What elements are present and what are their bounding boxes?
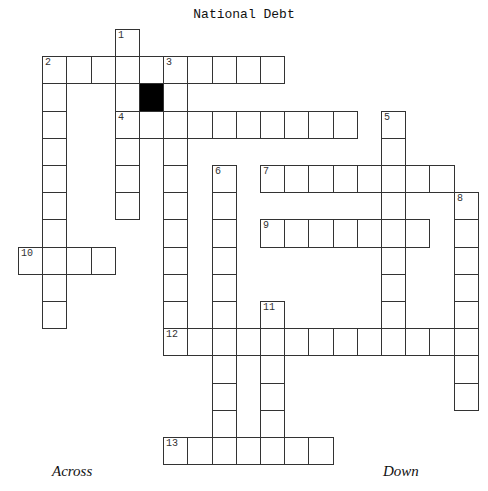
grid-cell[interactable] — [308, 437, 334, 465]
grid-cell[interactable] — [115, 165, 140, 193]
grid-cell[interactable] — [163, 165, 188, 193]
grid-cell[interactable] — [381, 328, 406, 356]
grid-cell[interactable] — [260, 410, 285, 438]
grid-cell[interactable] — [139, 56, 164, 84]
grid-cell[interactable] — [454, 274, 479, 302]
grid-cell[interactable] — [454, 301, 479, 329]
grid-cell[interactable]: 3 — [163, 56, 188, 84]
grid-cell[interactable] — [381, 165, 406, 193]
grid-cell[interactable] — [212, 192, 237, 220]
grid-cell[interactable] — [212, 111, 237, 139]
grid-cell[interactable]: 7 — [260, 165, 285, 193]
grid-cell[interactable] — [212, 383, 237, 411]
grid-cell[interactable] — [236, 56, 261, 84]
grid-cell[interactable] — [212, 56, 237, 84]
grid-cell[interactable] — [236, 328, 261, 356]
grid-cell[interactable] — [163, 83, 188, 112]
grid-cell[interactable] — [163, 138, 188, 166]
grid-cell[interactable]: 12 — [163, 328, 188, 356]
grid-cell[interactable] — [212, 274, 237, 302]
grid-cell[interactable] — [405, 165, 430, 193]
grid-cell[interactable] — [405, 328, 430, 356]
grid-cell[interactable] — [333, 328, 358, 356]
grid-cell[interactable] — [260, 56, 285, 84]
grid-cell[interactable] — [42, 192, 67, 220]
grid-cell[interactable] — [308, 328, 334, 356]
grid-cell[interactable] — [260, 383, 285, 411]
grid-cell[interactable] — [66, 247, 92, 275]
grid-cell[interactable] — [212, 355, 237, 384]
grid-cell[interactable] — [308, 219, 334, 248]
grid-cell[interactable] — [333, 111, 358, 139]
grid-cell[interactable] — [163, 301, 188, 329]
grid-cell[interactable]: 13 — [163, 437, 188, 465]
grid-cell[interactable] — [187, 56, 213, 84]
grid-cell[interactable] — [284, 219, 309, 248]
grid-cell[interactable] — [260, 111, 285, 139]
grid-cell[interactable] — [212, 301, 237, 329]
grid-cell[interactable] — [454, 247, 479, 275]
grid-cell[interactable] — [42, 247, 67, 275]
grid-cell[interactable] — [212, 410, 237, 438]
grid-cell[interactable] — [308, 111, 334, 139]
grid-cell[interactable] — [333, 219, 358, 248]
grid-cell[interactable]: 10 — [18, 247, 43, 275]
grid-cell[interactable]: 9 — [260, 219, 285, 248]
grid-cell[interactable] — [187, 437, 213, 465]
grid-cell[interactable] — [212, 437, 237, 465]
grid-cell[interactable] — [381, 274, 406, 302]
grid-cell[interactable] — [308, 165, 334, 193]
grid-cell[interactable] — [454, 328, 479, 356]
grid-cell[interactable] — [260, 437, 285, 465]
grid-cell[interactable] — [333, 165, 358, 193]
grid-cell[interactable] — [163, 192, 188, 220]
grid-cell[interactable] — [42, 165, 67, 193]
grid-cell[interactable] — [429, 328, 455, 356]
grid-cell[interactable] — [454, 383, 479, 411]
grid-cell[interactable] — [187, 328, 213, 356]
grid-cell[interactable]: 2 — [42, 56, 67, 84]
grid-cell[interactable] — [42, 138, 67, 166]
grid-cell[interactable] — [284, 111, 309, 139]
grid-cell[interactable] — [115, 83, 140, 112]
grid-cell[interactable] — [42, 83, 67, 112]
grid-cell[interactable] — [381, 301, 406, 329]
grid-cell[interactable] — [357, 165, 382, 193]
grid-cell[interactable] — [42, 219, 67, 248]
grid-cell[interactable] — [454, 355, 479, 384]
grid-cell[interactable]: 8 — [454, 192, 479, 220]
grid-cell[interactable] — [163, 111, 188, 139]
grid-cell[interactable] — [236, 111, 261, 139]
grid-cell[interactable]: 5 — [381, 111, 406, 139]
grid-cell[interactable] — [163, 219, 188, 248]
grid-cell[interactable] — [381, 138, 406, 166]
grid-cell[interactable] — [187, 111, 213, 139]
grid-cell[interactable] — [42, 274, 67, 302]
grid-cell[interactable] — [260, 328, 285, 356]
grid-cell[interactable] — [284, 437, 309, 465]
grid-cell[interactable]: 11 — [260, 301, 285, 329]
grid-cell[interactable] — [284, 165, 309, 193]
grid-cell[interactable] — [115, 56, 140, 84]
grid-cell[interactable] — [115, 192, 140, 220]
grid-cell[interactable] — [42, 301, 67, 329]
grid-cell[interactable] — [163, 274, 188, 302]
grid-cell[interactable] — [163, 247, 188, 275]
grid-cell[interactable] — [381, 192, 406, 220]
grid-cell[interactable]: 6 — [212, 165, 237, 193]
grid-cell[interactable] — [212, 219, 237, 248]
grid-cell[interactable] — [357, 328, 382, 356]
grid-cell[interactable] — [91, 56, 116, 84]
grid-cell[interactable] — [405, 219, 430, 248]
grid-cell[interactable] — [212, 328, 237, 356]
grid-cell[interactable] — [454, 219, 479, 248]
grid-cell[interactable] — [260, 355, 285, 384]
grid-cell[interactable] — [66, 56, 92, 84]
grid-cell[interactable] — [429, 165, 455, 193]
grid-cell[interactable] — [381, 219, 406, 248]
grid-cell[interactable]: 1 — [115, 29, 140, 57]
grid-cell[interactable] — [284, 328, 309, 356]
grid-cell[interactable] — [236, 437, 261, 465]
grid-cell[interactable] — [139, 111, 164, 139]
grid-cell[interactable] — [42, 111, 67, 139]
